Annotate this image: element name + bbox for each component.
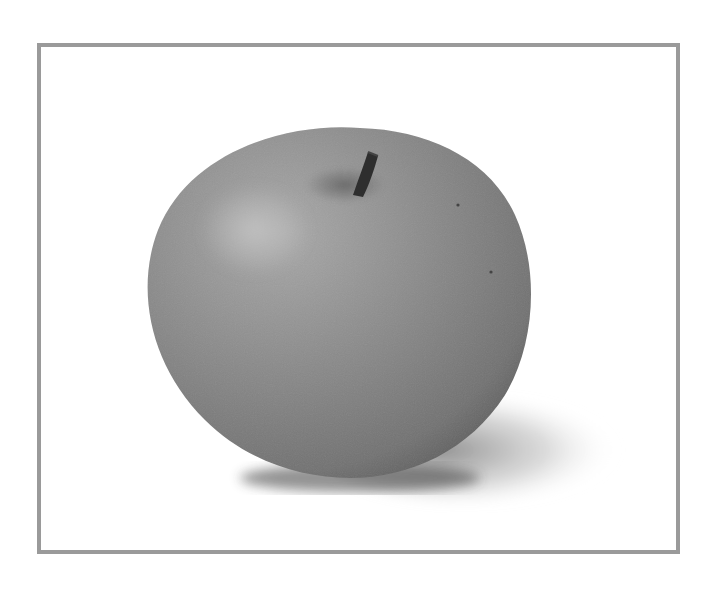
apple-body	[148, 127, 531, 478]
apple-photo	[0, 0, 715, 594]
